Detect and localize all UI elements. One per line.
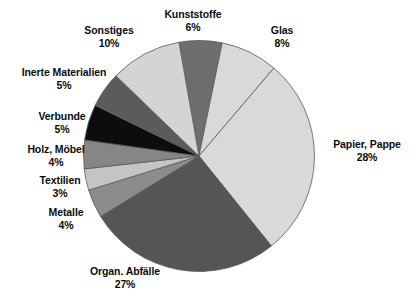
slice-label-metalle-name: Metalle [33, 206, 99, 219]
slice-label-glas: Glas 8% [246, 24, 318, 49]
slice-label-glas-name: Glas [246, 24, 318, 37]
slice-label-textilien: Textilien 3% [23, 174, 97, 199]
slice-label-sonstiges-value: 10% [68, 37, 150, 50]
slice-label-verbunde-value: 5% [22, 123, 102, 136]
slice-label-textilien-name: Textilien [23, 174, 97, 187]
slice-label-verbunde: Verbunde 5% [22, 110, 102, 135]
slice-label-metalle-value: 4% [33, 219, 99, 232]
slice-label-holz-moebel: Holz, Möbel 4% [12, 143, 100, 168]
slice-label-sonstiges: Sonstiges 10% [68, 24, 150, 49]
slice-label-holz-moebel-value: 4% [12, 156, 100, 169]
slice-label-inerte-materialien: Inerte Materialien 5% [4, 66, 124, 91]
slice-label-organ-abfaelle: Organ. Abfälle 27% [70, 265, 180, 290]
slice-label-glas-value: 8% [246, 37, 318, 50]
slice-label-holz-moebel-name: Holz, Möbel [12, 143, 100, 156]
slice-label-papier-pappe: Papier, Pappe 28% [324, 138, 410, 163]
slice-label-inerte-materialien-value: 5% [4, 79, 124, 92]
slice-label-verbunde-name: Verbunde [22, 110, 102, 123]
slice-label-inerte-materialien-name: Inerte Materialien [4, 66, 124, 79]
pie-chart: Kunststoffe 6% Glas 8% Papier, Pappe 28%… [0, 0, 412, 304]
slice-label-papier-pappe-value: 28% [324, 151, 410, 164]
slice-label-papier-pappe-name: Papier, Pappe [324, 138, 410, 151]
slice-label-organ-abfaelle-name: Organ. Abfälle [70, 265, 180, 278]
slice-label-kunststoffe-name: Kunststoffe [139, 8, 247, 21]
slice-label-textilien-value: 3% [23, 187, 97, 200]
slice-label-kunststoffe-value: 6% [139, 21, 247, 34]
slice-label-organ-abfaelle-value: 27% [70, 278, 180, 291]
slice-label-metalle: Metalle 4% [33, 206, 99, 231]
slice-label-sonstiges-name: Sonstiges [68, 24, 150, 37]
slice-label-kunststoffe: Kunststoffe 6% [139, 8, 247, 33]
